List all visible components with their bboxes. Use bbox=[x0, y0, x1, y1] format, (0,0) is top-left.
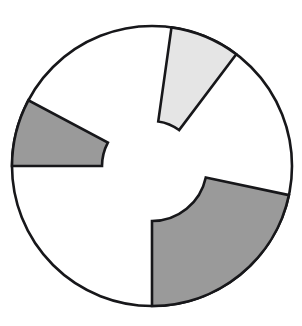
pie-chart-figure bbox=[0, 0, 302, 326]
pie-chart-canvas bbox=[0, 0, 302, 326]
